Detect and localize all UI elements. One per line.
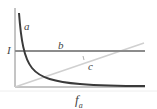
curve-a-label: a <box>24 21 30 32</box>
line-c <box>15 43 144 87</box>
tick-mark-c <box>83 56 84 60</box>
line-c-label: c <box>88 61 93 72</box>
x-axis-label-sub: a <box>79 101 83 109</box>
x-axis-label: fa <box>75 93 83 109</box>
line-b-label: b <box>58 40 64 51</box>
y-tick-label: I <box>7 45 11 56</box>
